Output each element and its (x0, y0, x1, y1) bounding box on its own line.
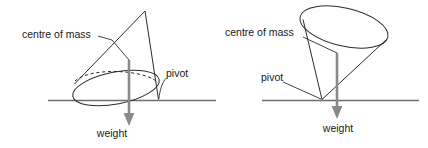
pivot-leader-left (159, 78, 167, 99)
physics-cone-pivot-diagram: centre of mass pivot weight (0, 0, 428, 148)
panel-left: centre of mass pivot weight (22, 11, 216, 139)
pivot-leader-right (283, 82, 321, 99)
panel-right: centre of mass pivot weight (225, 0, 419, 134)
weight-label-left: weight (96, 127, 127, 139)
centre-of-mass-label-right: centre of mass (225, 26, 294, 38)
weight-arrow-right-head (332, 106, 343, 119)
weight-arrow-right (332, 53, 343, 119)
pivot-label-left: pivot (166, 67, 188, 79)
cone-right-shape (296, 0, 392, 99)
centre-of-mass-label-left: centre of mass (22, 28, 91, 40)
pivot-label-right: pivot (261, 71, 283, 83)
centre-of-mass-leader-left (98, 36, 129, 60)
cone-left-shape (70, 11, 162, 112)
cone-left-slant-right (145, 11, 159, 100)
cone-right-slant-left (303, 20, 322, 100)
cone-left-base-hidden-rim (75, 71, 158, 83)
centre-of-mass-leader-right (303, 37, 337, 53)
diagram-canvas: centre of mass pivot weight (0, 0, 428, 148)
weight-label-right: weight (322, 122, 353, 134)
weight-arrow-left-head (124, 113, 135, 126)
